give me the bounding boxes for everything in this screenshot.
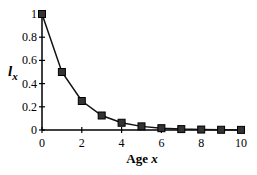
x-tick-label: 8 [198,136,204,150]
x-tick-label: 0 [39,136,45,150]
x-tick-label: 4 [119,136,125,150]
data-point-marker [218,126,225,133]
y-tick-label: 0.8 [22,30,37,44]
data-point-marker [98,112,105,119]
plot-area [39,11,245,134]
y-tick-label: 0.6 [22,53,37,67]
data-point-marker [118,119,125,126]
x-tick-label: 10 [235,136,247,150]
y-tick-label: 1 [31,7,37,21]
survivorship-chart: 00.20.40.60.810246810 lx Age x [0,0,257,175]
y-tick-label: 0 [31,123,37,137]
data-point-marker [158,125,165,132]
x-tick-label: 2 [79,136,85,150]
y-tick-label: 0.2 [22,100,37,114]
series-line [42,14,241,130]
data-point-marker [78,98,85,105]
data-point-marker [138,123,145,130]
data-point-marker [178,126,185,133]
x-tick-label: 6 [158,136,164,150]
data-point-marker [58,69,65,76]
data-point-marker [198,126,205,133]
y-tick-label: 0.4 [22,77,37,91]
x-axis-label: Age x [126,151,158,166]
data-point-marker [39,11,46,18]
data-point-marker [238,126,245,133]
y-axis-label: lx [8,63,18,82]
axes: 00.20.40.60.810246810 [22,7,247,150]
